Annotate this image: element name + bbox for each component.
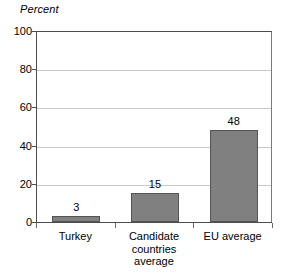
x-category-label: EU average — [193, 230, 272, 243]
bar[interactable] — [131, 193, 179, 222]
category-tick — [36, 223, 37, 228]
bar-value-label: 48 — [228, 115, 240, 127]
x-axis-category-labels: TurkeyCandidatecountriesaverageEU averag… — [36, 230, 272, 275]
y-tick-label: 80 — [2, 64, 32, 75]
x-category-label: Turkey — [36, 230, 115, 243]
y-tick-label: 0 — [2, 217, 32, 228]
y-tick-label: 100 — [2, 26, 32, 37]
bar-slot: 3 — [37, 32, 116, 222]
bar[interactable] — [210, 130, 258, 222]
category-tick — [193, 223, 194, 228]
bar-slot: 48 — [194, 32, 273, 222]
x-category-label-line: average — [115, 255, 194, 268]
y-tick-label: 60 — [2, 102, 32, 113]
category-tick — [272, 223, 273, 228]
x-category-label-line: Candidate — [115, 230, 194, 243]
bar-chart: Percent 020406080100 31548 TurkeyCandida… — [0, 0, 283, 275]
plot-area: 31548 — [36, 31, 272, 222]
y-axis-tick-labels: 020406080100 — [0, 0, 32, 275]
category-tick — [115, 223, 116, 228]
bar-slot: 15 — [116, 32, 195, 222]
x-category-label-line: countries — [115, 243, 194, 256]
x-category-label-line: Turkey — [36, 230, 115, 243]
bar-value-label: 15 — [149, 178, 161, 190]
y-tick-label: 20 — [2, 179, 32, 190]
x-axis-line — [36, 222, 272, 223]
y-tick-label: 40 — [2, 141, 32, 152]
bar-value-label: 3 — [73, 201, 79, 213]
x-category-label: Candidatecountriesaverage — [115, 230, 194, 268]
x-category-label-line: EU average — [193, 230, 272, 243]
